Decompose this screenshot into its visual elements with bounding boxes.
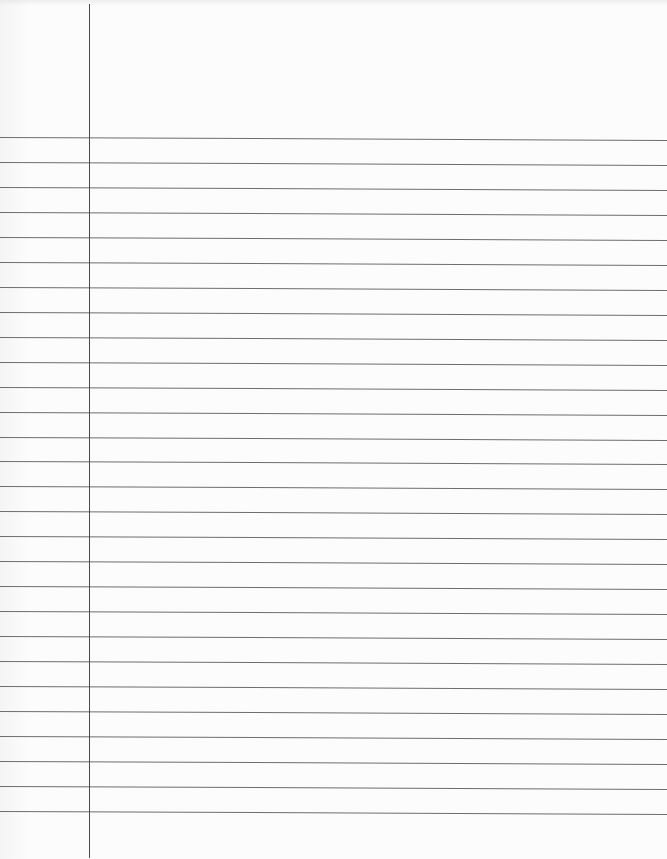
ruled-line: [0, 262, 667, 266]
ruled-line: [0, 312, 667, 316]
ruled-line: [0, 162, 667, 166]
ruled-line: [0, 636, 667, 640]
ruled-line: [0, 761, 667, 765]
ruled-line: [0, 536, 667, 540]
ruled-line: [0, 337, 667, 341]
ruled-line: [0, 736, 667, 740]
ruled-line: [0, 187, 667, 191]
ruled-line: [0, 486, 667, 490]
ruled-line: [0, 362, 667, 366]
ruled-line: [0, 811, 667, 815]
ruled-line: [0, 461, 667, 465]
ruled-line: [0, 711, 667, 715]
ruled-line: [0, 387, 667, 391]
ruled-line: [0, 137, 667, 141]
ruled-line: [0, 412, 667, 416]
ruled-line: [0, 586, 667, 590]
margin-line: [89, 4, 90, 858]
notebook-page: [0, 0, 667, 859]
ruled-line: [0, 561, 667, 565]
ruled-line: [0, 786, 667, 790]
ruled-line: [0, 511, 667, 515]
ruled-line: [0, 686, 667, 690]
ruled-line: [0, 611, 667, 615]
ruled-line: [0, 661, 667, 665]
ruled-line: [0, 212, 667, 216]
ruled-line: [0, 237, 667, 241]
ruled-lines: [0, 0, 667, 859]
ruled-line: [0, 437, 667, 441]
ruled-line: [0, 287, 667, 291]
